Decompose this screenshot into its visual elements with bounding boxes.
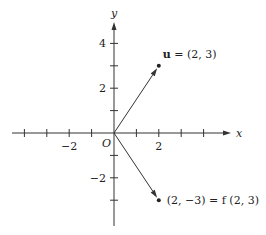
origin-label: O xyxy=(102,137,111,150)
vector-diagram: −2242−2xyOu = (2, 3)(2, −3) = f (2, 3) xyxy=(0,0,266,235)
vector-endpoint xyxy=(157,198,161,202)
vector-endpoint xyxy=(157,64,161,68)
vector-arrow-icon xyxy=(151,68,158,76)
y-tick-label: −2 xyxy=(90,172,106,185)
vector-label-f-of-u: (2, −3) = f (2, 3) xyxy=(167,194,259,207)
y-tick-label: 2 xyxy=(99,82,106,95)
x-axis-label: x xyxy=(236,127,243,140)
y-tick-label: 4 xyxy=(99,37,106,50)
y-axis-arrow-icon xyxy=(112,22,117,30)
vector-u xyxy=(114,75,153,133)
y-axis-label: y xyxy=(110,7,118,20)
x-tick-label: 2 xyxy=(155,140,162,153)
labels: −2242−2xyOu = (2, 3)(2, −3) = f (2, 3) xyxy=(61,7,259,207)
x-axis-arrow-icon xyxy=(223,131,231,136)
vector-f-of-u xyxy=(114,133,153,191)
vector-arrow-icon xyxy=(151,190,158,198)
x-tick-label: −2 xyxy=(61,140,77,153)
vector-label-u: u = (2, 3) xyxy=(163,48,217,61)
